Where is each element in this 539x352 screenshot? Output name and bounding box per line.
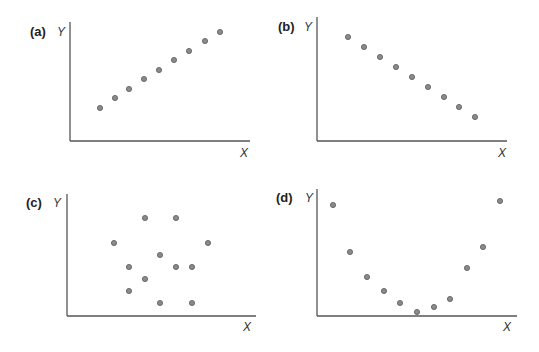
data-point bbox=[173, 215, 178, 220]
data-point bbox=[189, 264, 194, 269]
panel-label: (d) bbox=[276, 190, 293, 205]
data-point bbox=[189, 300, 194, 305]
data-point bbox=[126, 288, 131, 293]
data-point bbox=[173, 264, 178, 269]
data-point bbox=[472, 114, 477, 119]
data-point bbox=[202, 38, 207, 43]
data-point bbox=[157, 300, 162, 305]
scatter-panel-c: (c)YX bbox=[26, 194, 256, 334]
panel-label: (a) bbox=[30, 24, 46, 39]
data-point bbox=[171, 57, 176, 62]
data-point bbox=[157, 252, 162, 257]
x-axis-label: X bbox=[502, 320, 512, 334]
scatter-panel-a: (a)YX bbox=[30, 22, 250, 160]
data-point bbox=[377, 54, 382, 59]
data-point bbox=[345, 34, 350, 39]
data-point bbox=[456, 104, 461, 109]
panel-label: (b) bbox=[278, 19, 295, 34]
data-point bbox=[414, 309, 419, 314]
x-axis-label: X bbox=[239, 146, 249, 160]
data-point bbox=[447, 296, 452, 301]
data-point bbox=[186, 48, 191, 53]
data-point bbox=[330, 202, 335, 207]
data-point bbox=[111, 240, 116, 245]
data-point bbox=[142, 215, 147, 220]
y-axis-label: Y bbox=[57, 25, 66, 39]
data-point bbox=[217, 29, 222, 34]
data-point bbox=[112, 95, 117, 100]
data-point bbox=[425, 84, 430, 89]
data-point bbox=[364, 274, 369, 279]
data-point bbox=[497, 198, 502, 203]
data-point bbox=[361, 44, 366, 49]
data-point bbox=[347, 249, 352, 254]
data-point bbox=[142, 276, 147, 281]
data-point bbox=[480, 244, 485, 249]
x-axis-label: X bbox=[242, 320, 252, 334]
data-point bbox=[126, 86, 131, 91]
y-axis-label: Y bbox=[53, 196, 62, 210]
scatter-panel-b: (b)YX bbox=[278, 17, 507, 160]
data-point bbox=[381, 288, 386, 293]
y-axis-label: Y bbox=[304, 20, 313, 34]
data-point bbox=[464, 265, 469, 270]
x-axis-label: X bbox=[497, 146, 507, 160]
scatter-panel-d: (d)YX bbox=[276, 189, 517, 334]
data-point bbox=[393, 64, 398, 69]
data-point bbox=[126, 264, 131, 269]
data-point bbox=[441, 94, 446, 99]
panel-label: (c) bbox=[26, 195, 42, 210]
data-point bbox=[205, 240, 210, 245]
scatter-figure: (a)YX(b)YX(c)YX(d)YX bbox=[0, 0, 539, 352]
data-point bbox=[156, 67, 161, 72]
data-point bbox=[397, 300, 402, 305]
data-point bbox=[431, 304, 436, 309]
y-axis-label: Y bbox=[305, 191, 314, 205]
data-point bbox=[409, 74, 414, 79]
data-point bbox=[141, 76, 146, 81]
data-point bbox=[97, 105, 102, 110]
